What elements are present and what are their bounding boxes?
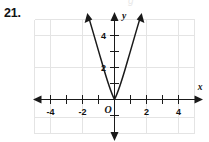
y-tick-label-4: 4: [101, 31, 106, 41]
x-axis: [33, 96, 203, 104]
origin-label: O: [104, 104, 111, 115]
coordinate-plane-chart: -4 -2 2 4 2 4 O x y: [0, 0, 209, 142]
y-tick-label-2: 2: [101, 63, 106, 73]
x-axis-label: x: [197, 82, 203, 92]
y-axis-label: y: [121, 11, 127, 21]
x-tick-label-neg2: -2: [78, 107, 86, 117]
x-tick-label-neg4: -4: [46, 107, 54, 117]
figure-root: g 21.: [0, 0, 209, 142]
y-axis: [111, 12, 119, 141]
x-tick-label-pos2: 2: [144, 107, 149, 117]
x-tick-label-pos4: 4: [176, 107, 181, 117]
